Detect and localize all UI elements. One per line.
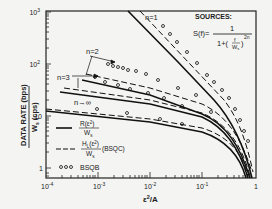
label-n3: n=3	[57, 73, 70, 82]
y-axis-label: DATA RATE (bps) Ws(cps)	[19, 84, 40, 148]
x-axis-ticks	[62, 172, 251, 178]
label-ninf: n→∞	[74, 98, 91, 107]
svg-text:f: f	[234, 37, 236, 43]
curve-n2-dashed	[86, 74, 252, 172]
y-tick-labels: 1 10 102 103	[29, 7, 43, 172]
svg-text:DATA RATE (bps): DATA RATE (bps)	[19, 84, 28, 146]
svg-text:2n: 2n	[244, 34, 250, 40]
label-n2: n=2	[86, 47, 99, 56]
curves	[46, 11, 253, 178]
y-tick-1000: 103	[29, 7, 40, 16]
sources-title: SOURCES:	[195, 13, 232, 20]
x-tick-1: 1	[254, 183, 258, 190]
legend-dashed-numerator: HL(ε2)	[82, 140, 99, 149]
x-tick-1e-1: 10-1	[196, 181, 208, 190]
formula-denominator: 1+(	[217, 39, 229, 48]
y-axis-ticks	[46, 12, 51, 176]
legend-circles-label: BSQB	[80, 164, 100, 172]
x-axis-label: ε2/A	[143, 194, 158, 204]
y-tick-100: 102	[29, 59, 40, 68]
label-n1: n=1	[145, 13, 158, 22]
legend: R(ε2) Ws HL(ε2) Ws (BSQC) BSQB	[56, 120, 125, 172]
legend-solid-denominator: Ws	[84, 129, 93, 138]
legend-dashed-tag: (BSQC)	[102, 145, 125, 153]
formula-numerator: 1	[230, 24, 234, 33]
curve-n2-solid	[82, 80, 250, 178]
legend-dashed-denominator: Ws	[86, 150, 95, 159]
y-tick-1: 1	[39, 165, 43, 172]
svg-text:): )	[241, 39, 244, 48]
x-tick-1e-4: 10-4	[41, 181, 53, 190]
svg-text:Ws: Ws	[232, 44, 239, 51]
x-tick-labels: 10-4 10-3 10-2 10-1 1	[41, 181, 258, 190]
legend-solid-numerator: R(ε2)	[80, 120, 94, 128]
curve-ninf-dashed	[46, 109, 248, 176]
svg-text:Ws(cps): Ws(cps)	[30, 102, 40, 132]
sources-formula: SOURCES: S(f)= 1 1+( f Ws ) 2n	[193, 13, 252, 51]
x-tick-1e-3: 10-3	[93, 181, 105, 190]
x-tick-1e-2: 10-2	[144, 181, 156, 190]
chart: 1 10 102 103 10-4 10-3 10-2 10-1 1 ε2/A …	[0, 0, 272, 209]
legend-circles-swatch	[60, 166, 73, 169]
formula-lhs: S(f)=	[193, 29, 210, 38]
